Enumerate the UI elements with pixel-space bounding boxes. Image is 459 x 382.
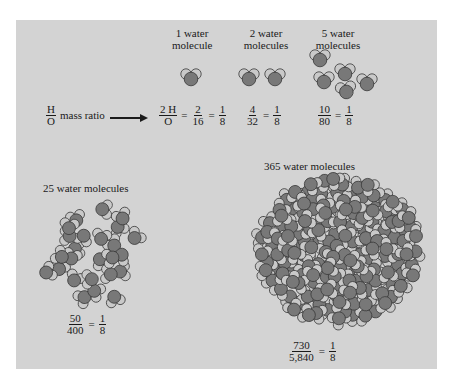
denominator: 80	[318, 116, 331, 127]
water-molecule	[239, 69, 259, 86]
denominator: 8	[99, 325, 107, 336]
arrow-icon	[110, 117, 146, 119]
header-25-water-molecules: 25 water molecules	[43, 182, 129, 194]
water-molecule	[335, 64, 355, 81]
denominator: O	[46, 116, 56, 127]
equals: =	[319, 346, 325, 357]
ratio-1-molecule: 2 HO = 216 = 18	[158, 104, 227, 127]
denominator: 8	[273, 116, 281, 127]
header-365-water-molecules: 365 water molecules	[264, 160, 355, 172]
denominator: O	[163, 116, 173, 127]
ratio-5-molecules: 1080 = 18	[317, 104, 354, 127]
h-over-o-mass-ratio: H O mass ratio	[45, 104, 105, 127]
equals: =	[181, 110, 187, 121]
water-molecule	[310, 50, 330, 67]
denominator: 5,840	[288, 352, 315, 363]
equals: =	[335, 110, 341, 121]
fraction-h-o: H O	[46, 104, 56, 127]
denominator: 32	[246, 116, 259, 127]
equals: =	[263, 110, 269, 121]
water-molecule	[335, 80, 358, 100]
denominator: 400	[66, 325, 85, 336]
water-molecule	[181, 69, 201, 86]
denominator: 8	[345, 116, 353, 127]
water-molecule	[357, 74, 377, 91]
water-molecule	[265, 69, 285, 86]
ratio-365-molecules: 7305,840 = 18	[287, 340, 337, 363]
ratio-25-molecules: 50400 = 18	[65, 313, 107, 336]
denominator: 8	[329, 352, 337, 363]
denominator: 16	[191, 116, 204, 127]
equals: =	[89, 319, 95, 330]
water-molecule	[314, 72, 334, 89]
denominator: 8	[219, 116, 227, 127]
mass-ratio-label: mass ratio	[60, 110, 105, 121]
equals: =	[208, 110, 214, 121]
water-molecule	[103, 287, 127, 309]
water-molecule	[95, 199, 113, 220]
ratio-2-molecules: 432 = 18	[245, 104, 282, 127]
